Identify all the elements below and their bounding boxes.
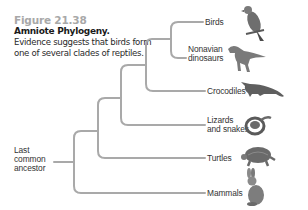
branch-node4-upper	[146, 39, 171, 65]
rabbit-icon	[243, 168, 267, 206]
crocodile-icon	[240, 78, 286, 100]
taxon-label-mammals: Mammals	[207, 189, 243, 198]
branch-nonavian	[171, 39, 186, 58]
taxon-label-nonavian-dinosaurs: Nonavian dinosaurs	[188, 45, 223, 63]
branch-node3-upper	[121, 65, 146, 98]
taxon-label-turtles: Turtles	[207, 154, 232, 163]
branch-crocodiles	[146, 65, 205, 91]
dinosaur-icon	[226, 43, 268, 73]
root-label: Last common ancestor	[14, 146, 46, 173]
branch-lizards	[121, 98, 205, 125]
branch-node1-upper	[74, 131, 98, 162]
bird-icon	[238, 4, 272, 42]
branch-turtles	[98, 131, 205, 158]
turtle-icon	[240, 145, 276, 167]
root-label-line: ancestor	[14, 164, 46, 173]
taxon-label-birds: Birds	[205, 18, 224, 27]
branch-birds	[171, 22, 203, 39]
snake-icon	[243, 114, 273, 136]
taxon-label-line: dinosaurs	[188, 54, 223, 63]
branch-node2-upper	[98, 98, 121, 131]
branch-mammals	[74, 162, 205, 193]
